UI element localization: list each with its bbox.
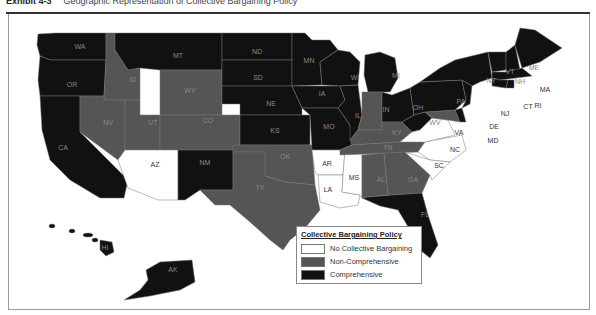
- state-nd[interactable]: [222, 33, 292, 60]
- label-ga: GA: [408, 176, 418, 183]
- label-ak: AK: [168, 266, 178, 273]
- legend-swatch-black: [301, 270, 325, 280]
- label-nm: NM: [200, 159, 211, 166]
- label-la: LA: [324, 186, 333, 193]
- label-ia: IA: [319, 90, 326, 97]
- label-mo: MO: [323, 123, 335, 130]
- legend-label: No Collective Bargaining: [330, 244, 412, 253]
- label-mi: MI: [392, 72, 400, 79]
- label-az: AZ: [151, 161, 161, 168]
- label-ne: NE: [266, 100, 276, 107]
- label-in: IN: [383, 106, 390, 113]
- label-ms: MS: [349, 174, 360, 181]
- label-fl: FL: [421, 211, 429, 218]
- label-tx: TX: [256, 184, 265, 191]
- state-or[interactable]: [38, 56, 106, 96]
- label-sc: SC: [434, 162, 444, 169]
- label-de: DE: [489, 123, 499, 130]
- label-nd: ND: [252, 48, 262, 55]
- label-sd: SD: [253, 74, 263, 81]
- label-wv: WV: [429, 119, 441, 126]
- legend-label: Non-Comprehensive: [330, 257, 399, 266]
- label-wi: WI: [351, 74, 360, 81]
- label-nc: NC: [450, 146, 460, 153]
- legend-title: Collective Bargaining Policy: [301, 230, 402, 239]
- state-ak[interactable]: [124, 260, 195, 300]
- legend-label: Comprehensive: [330, 270, 383, 279]
- label-nh: NH: [515, 78, 525, 85]
- legend-swatch-white: [301, 244, 325, 254]
- label-al: AL: [377, 176, 386, 183]
- label-md: MD: [488, 137, 499, 144]
- label-co: CO: [203, 117, 214, 124]
- state-wa[interactable]: [37, 33, 106, 60]
- label-nj: NJ: [501, 110, 510, 117]
- label-ks: KS: [270, 127, 280, 134]
- legend-item-non-comprehensive: Non-Comprehensive: [301, 256, 399, 267]
- label-hi: HI: [102, 244, 109, 251]
- label-vt: VT: [506, 68, 516, 75]
- label-me: ME: [529, 64, 540, 71]
- label-wa: WA: [74, 43, 85, 50]
- label-ut: UT: [148, 119, 158, 126]
- state-co[interactable]: [160, 115, 240, 150]
- state-az[interactable]: [118, 150, 178, 200]
- label-ar: AR: [322, 160, 332, 167]
- legend-item-comprehensive: Comprehensive: [301, 269, 383, 280]
- label-oh: OH: [413, 104, 424, 111]
- label-nv: NV: [103, 119, 113, 126]
- label-ny: NY: [486, 77, 496, 84]
- label-id: ID: [130, 76, 137, 83]
- legend-item-none: No Collective Bargaining: [301, 243, 412, 254]
- state-ne[interactable]: [222, 86, 302, 115]
- label-va: VA: [455, 129, 464, 136]
- label-wy: WY: [184, 87, 196, 94]
- state-me[interactable]: [515, 28, 562, 68]
- legend-swatch-gray: [301, 257, 325, 267]
- label-mn: MN: [304, 57, 315, 64]
- state-hi[interactable]: [49, 224, 114, 256]
- label-ct: CT: [523, 103, 533, 110]
- label-il: IL: [355, 112, 361, 119]
- label-ri: RI: [535, 102, 542, 109]
- label-ky: KY: [392, 129, 402, 136]
- label-ma: MA: [540, 86, 551, 93]
- state-mt[interactable]: [115, 33, 222, 70]
- label-tn: TN: [383, 144, 392, 151]
- label-ca: CA: [58, 144, 68, 151]
- label-pa: PA: [457, 98, 466, 105]
- label-or: OR: [67, 81, 78, 88]
- label-ok: OK: [280, 153, 290, 160]
- map-legend: Collective Bargaining Policy No Collecti…: [296, 226, 422, 284]
- label-mt: MT: [173, 52, 184, 59]
